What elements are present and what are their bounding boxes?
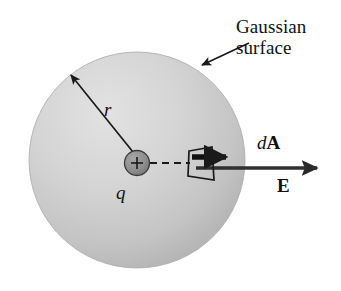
gaussian-surface-label-line2: surface	[236, 37, 306, 58]
area-element-label-A: A	[267, 132, 281, 153]
area-element-label: dA	[257, 132, 280, 153]
electric-field-label: E	[277, 175, 290, 196]
gaussian-surface-figure: Gaussian surface r q dA E	[0, 0, 341, 291]
gaussian-surface-label-line1: Gaussian	[236, 16, 306, 37]
area-element-label-d: d	[257, 132, 267, 153]
radius-label: r	[104, 99, 111, 120]
charge-label: q	[116, 182, 126, 203]
gaussian-surface-label: Gaussian surface	[236, 16, 306, 59]
